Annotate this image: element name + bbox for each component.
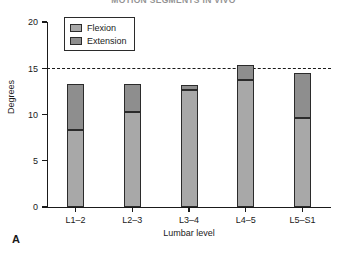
legend-swatch-icon <box>70 24 82 32</box>
legend-item-flexion: Flexion <box>70 21 127 34</box>
legend-swatch-icon <box>70 37 82 45</box>
bar-segment-flexion <box>181 90 198 207</box>
x-tick-label-2: L3–4 <box>179 215 199 225</box>
x-tick-label-1: L2–3 <box>122 215 142 225</box>
chart-legend: FlexionExtension <box>64 17 135 51</box>
x-tick-0 <box>75 207 76 212</box>
bar-segment-flexion <box>67 130 84 207</box>
y-tick-10: 10 <box>42 114 47 115</box>
bar-segment-extension <box>237 65 254 81</box>
bar-group <box>237 22 254 207</box>
x-tick-1 <box>132 207 133 212</box>
figure-panel: MOTION SEGMENTS IN VIVO Degrees Lumbar l… <box>0 0 347 259</box>
y-tick-label-5: 5 <box>33 156 38 166</box>
x-tick-label-3: L4–5 <box>236 215 256 225</box>
panel-label: A <box>12 233 20 245</box>
y-tick-20: 20 <box>42 21 47 22</box>
x-tick-label-0: L1–2 <box>65 215 85 225</box>
y-axis-line <box>47 22 48 207</box>
y-tick-0: 0 <box>42 206 47 207</box>
x-tick-2 <box>188 207 189 212</box>
legend-label: Extension <box>87 36 127 46</box>
chart-title: MOTION SEGMENTS IN VIVO <box>0 0 347 5</box>
y-tick-label-10: 10 <box>28 110 38 120</box>
legend-item-extension: Extension <box>70 34 127 47</box>
x-tick-label-4: L5–S1 <box>290 215 316 225</box>
y-tick-label-0: 0 <box>33 202 38 212</box>
x-axis-title: Lumbar level <box>47 228 331 238</box>
bar-segment-flexion <box>124 112 141 207</box>
bar-group <box>294 22 311 207</box>
bar-segment-extension <box>181 85 198 91</box>
bar-segment-extension <box>294 73 311 118</box>
bar-segment-extension <box>67 84 84 130</box>
bar-group <box>181 22 198 207</box>
x-tick-4 <box>302 207 303 212</box>
y-tick-5: 5 <box>42 160 47 161</box>
legend-label: Flexion <box>87 23 116 33</box>
bar-segment-flexion <box>294 118 311 207</box>
y-tick-label-20: 20 <box>28 17 38 27</box>
y-tick-label-15: 15 <box>28 64 38 74</box>
y-axis-title: Degrees <box>6 80 16 114</box>
x-tick-3 <box>245 207 246 212</box>
bar-segment-extension <box>124 84 141 112</box>
bar-segment-flexion <box>237 80 254 207</box>
